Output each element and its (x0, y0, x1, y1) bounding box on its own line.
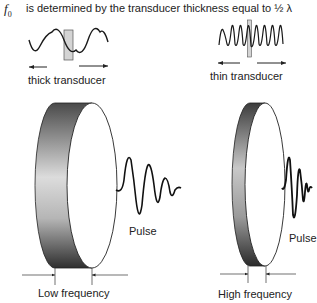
high-frequency-label: High frequency (218, 288, 292, 300)
thick-transducer-disc (35, 103, 117, 268)
disc-face (67, 103, 117, 268)
low-frequency-label: Low frequency (38, 287, 110, 299)
thick-wave-illustration (29, 28, 108, 67)
thick-transducer-label: thick transducer (28, 74, 106, 86)
high-frequency-pulse (282, 158, 312, 218)
thin-dimension (220, 266, 296, 283)
thin-transducer-disc (232, 103, 285, 266)
pulse-label-right: Pulse (289, 232, 317, 244)
disc-face (245, 103, 285, 266)
thin-transducer-label: thin transducer (210, 70, 283, 82)
diagram-canvas (0, 0, 317, 303)
thick-dimension (22, 268, 128, 285)
thickness-marker (64, 30, 73, 60)
low-frequency-pulse (116, 158, 181, 214)
pulse-label-left: Pulse (129, 225, 157, 237)
thin-wave-illustration (218, 20, 286, 63)
